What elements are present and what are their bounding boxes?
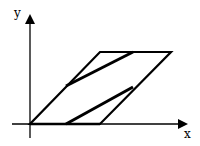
lower-inner-segment [66, 87, 133, 124]
diagram-canvas: y x [0, 0, 200, 146]
upper-inner-segment [66, 52, 133, 86]
x-axis-label: x [184, 127, 191, 141]
y-axis-label: y [13, 6, 21, 20]
parallelogram [30, 52, 171, 124]
